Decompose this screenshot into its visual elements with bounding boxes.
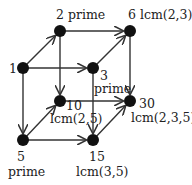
divisor-lattice-diagram: 12 prime6 lcm(2,3)3prime10lcm(2,5)30lcm(… bbox=[0, 0, 192, 185]
node-15 bbox=[87, 134, 99, 146]
node-5 bbox=[17, 134, 29, 146]
node-15-label: 15 bbox=[89, 149, 105, 164]
edge-3-to-6 bbox=[93, 36, 125, 68]
node-6 bbox=[124, 25, 136, 37]
node-10 bbox=[54, 95, 66, 107]
node-30-label: lcm(2,3,5) bbox=[131, 110, 192, 125]
node-1-label: 1 bbox=[9, 61, 17, 76]
node-2-label: 2 prime bbox=[56, 7, 105, 22]
node-5-label: 5 bbox=[17, 149, 25, 164]
node-10-label: lcm(2,5) bbox=[50, 111, 102, 126]
node-3 bbox=[87, 62, 99, 74]
node-2 bbox=[54, 25, 66, 37]
node-15-label: lcm(3,5) bbox=[76, 164, 128, 179]
node-30 bbox=[124, 95, 136, 107]
node-1 bbox=[17, 62, 29, 74]
node-6-label: 6 lcm(2,3) bbox=[128, 7, 192, 22]
node-30-label: 30 bbox=[139, 96, 155, 111]
labels-layer: 12 prime6 lcm(2,3)3prime10lcm(2,5)30lcm(… bbox=[8, 7, 192, 179]
edge-1-to-2 bbox=[23, 36, 55, 68]
node-3-label: prime bbox=[94, 81, 131, 96]
node-5-label: prime bbox=[8, 164, 45, 179]
